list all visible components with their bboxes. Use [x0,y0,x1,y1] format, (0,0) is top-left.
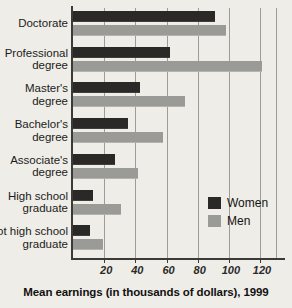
x-tick-100 [229,258,230,263]
bar-women-2 [73,82,140,93]
category-label-1: Professional degree [0,46,68,71]
bar-women-3 [73,118,128,129]
category-label-3: Bachelor's degree [0,118,68,143]
x-tick-label-100: 100 [222,264,240,276]
legend: Women Men [208,196,268,232]
legend-swatch-men-icon [208,215,221,227]
category-label-5: High school graduate [0,189,68,214]
bar-men-1 [73,61,262,72]
x-tick-60 [167,258,168,263]
bar-men-4 [73,168,138,179]
x-axis-title: Mean earnings (in thousands of dollars),… [0,286,292,298]
legend-item-women: Women [208,196,268,210]
x-tick-label-20: 20 [100,264,112,276]
bar-men-3 [73,132,163,143]
x-tick-label-80: 80 [194,264,206,276]
bar-men-0 [73,25,226,36]
legend-item-men: Men [208,214,268,228]
legend-swatch-women-icon [208,197,221,209]
x-tick-40 [135,258,136,263]
bar-women-6 [73,225,90,236]
category-label-6: Not high school graduate [0,225,68,250]
x-tick-80 [198,258,199,263]
bar-men-6 [73,239,103,250]
bar-women-1 [73,47,170,58]
category-label-0: Doctorate [0,17,68,30]
x-tick-120 [260,258,261,263]
bar-men-5 [73,204,121,215]
category-label-4: Associate's degree [0,153,68,178]
bar-chart: 20406080100120 DoctorateProfessional deg… [0,0,292,308]
x-tick-label-60: 60 [162,264,174,276]
x-tick-20 [104,258,105,263]
x-tick-label-40: 40 [131,264,143,276]
legend-label-men: Men [227,214,250,228]
legend-label-women: Women [227,196,268,210]
x-axis-line [71,258,285,260]
bar-women-0 [73,11,215,22]
bar-men-2 [73,96,185,107]
bar-women-4 [73,154,115,165]
category-label-2: Master's degree [0,82,68,107]
x-tick-label-120: 120 [253,264,271,276]
bar-women-5 [73,190,93,201]
